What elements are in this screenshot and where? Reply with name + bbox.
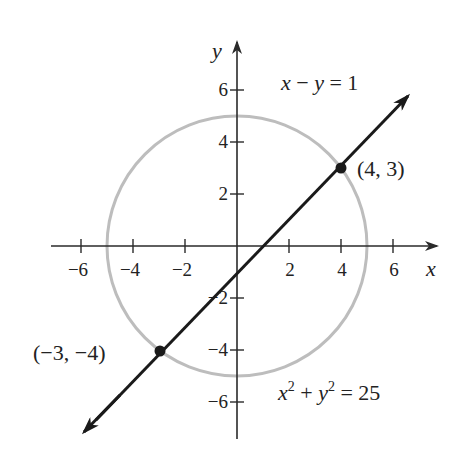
circle-equation-label: x2 + y2 = 25 bbox=[277, 379, 380, 405]
x-tick-label: −4 bbox=[120, 259, 141, 280]
x-tick-label: −6 bbox=[68, 259, 88, 280]
line-equation-label: x − y = 1 bbox=[280, 70, 358, 95]
intersection-point bbox=[155, 346, 166, 357]
y-tick-label: 4 bbox=[219, 131, 229, 152]
y-tick-label: −4 bbox=[208, 339, 229, 360]
y-axis-label: y bbox=[210, 38, 222, 63]
x-tick-label: 4 bbox=[337, 259, 347, 280]
system-of-equations-graph: −6 −4 −2 2 4 6 6 4 2 −2 −4 −6 x y (4, 3)… bbox=[0, 0, 463, 465]
line-curve bbox=[96, 96, 408, 420]
x-tick-label: −2 bbox=[172, 259, 192, 280]
point-label: (4, 3) bbox=[357, 156, 405, 181]
y-tick-label: 2 bbox=[219, 183, 229, 204]
y-tick-label: −6 bbox=[208, 391, 228, 412]
point-label: (−3, −4) bbox=[33, 340, 105, 365]
x-tick-label: 2 bbox=[285, 259, 295, 280]
line-curve-lower-arrow bbox=[84, 395, 120, 432]
x-axis-label: x bbox=[425, 256, 436, 281]
intersection-point bbox=[336, 163, 347, 174]
x-tick-label: 6 bbox=[389, 259, 399, 280]
y-tick-label: 6 bbox=[219, 79, 229, 100]
y-tick-label: −2 bbox=[208, 287, 228, 308]
